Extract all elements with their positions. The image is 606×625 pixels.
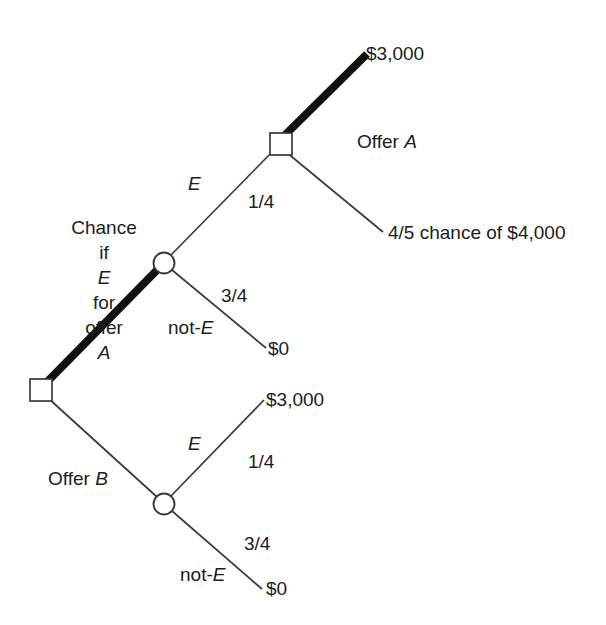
edge-decision-a-to-3000-bold <box>283 54 367 137</box>
node-chance-a-circle[interactable] <box>154 253 175 274</box>
node-decision-a-square[interactable] <box>270 133 292 155</box>
offer-a-italic-letter: A <box>404 131 417 152</box>
not-e-upper-prefix: not- <box>168 317 201 338</box>
edge-decision-a-to-4000 <box>286 152 383 232</box>
chance-block-line-3-italic: A <box>58 340 150 365</box>
node-root-decision-square[interactable] <box>30 379 52 401</box>
branch-label-not-e-lower: not-E <box>180 563 225 586</box>
chance-if-e-for-offer-a-block: Chance if E for offer A <box>58 215 150 365</box>
offer-b-text: Offer <box>48 468 95 489</box>
offer-b-italic-letter: B <box>95 468 108 489</box>
offer-b-label: Offer B <box>48 467 108 490</box>
branch-label-not-e-upper: not-E <box>168 316 213 339</box>
offer-a-text: Offer <box>357 131 404 152</box>
payoff-label-lower-3000: $3,000 <box>266 388 324 411</box>
chance-block-line-2-italic: E <box>58 265 150 290</box>
probability-label-one-quarter-upper: 1/4 <box>248 190 274 213</box>
payoff-label-lower-zero: $0 <box>266 577 287 600</box>
chance-block-line-2-pre: if <box>58 240 150 265</box>
chance-block-line-3-pre: offer <box>58 315 150 340</box>
chance-block-line-2-post: for <box>58 290 150 315</box>
probability-label-three-quarters-upper: 3/4 <box>221 284 247 307</box>
probability-label-three-quarters-lower: 3/4 <box>244 532 270 555</box>
chance-block-line-3: offer A <box>58 315 150 365</box>
branch-label-e-lower: E <box>188 432 201 455</box>
offer-a-label: Offer A <box>357 130 417 153</box>
payoff-label-upper-zero: $0 <box>268 337 289 360</box>
edge-chance-b-to-3000 <box>171 400 264 496</box>
decision-tree-diagram: $3,000 Offer A 4/5 chance of $4,000 E 1/… <box>0 0 606 625</box>
not-e-lower-italic: E <box>213 564 226 585</box>
not-e-lower-prefix: not- <box>180 564 213 585</box>
chance-block-line-1: Chance <box>58 215 150 240</box>
chance-block-line-2: if E for <box>58 240 150 315</box>
node-chance-b-circle[interactable] <box>154 494 175 515</box>
probability-label-one-quarter-lower: 1/4 <box>248 450 274 473</box>
branch-label-e-upper: E <box>188 172 201 195</box>
four-fifths-chance-label: 4/5 chance of $4,000 <box>388 221 565 244</box>
payoff-label-top-3000: $3,000 <box>366 42 424 65</box>
not-e-upper-italic: E <box>201 317 214 338</box>
